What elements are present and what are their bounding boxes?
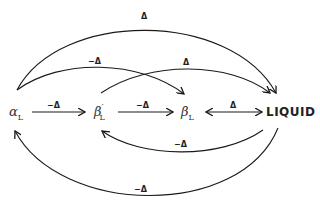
node-alpha-l: αL	[9, 105, 23, 122]
node-beta-prime-l: β′L	[94, 104, 105, 122]
label-liquid-to-alpha: −Δ	[134, 186, 147, 194]
label-beta-liquid: Δ	[230, 102, 236, 110]
label-alpha-to-beta: −Δ	[88, 58, 101, 66]
arc-beta-prime-to-liquid	[101, 69, 270, 93]
node-alpha-subscript: L	[18, 113, 23, 122]
node-beta-subscript: L	[189, 113, 194, 122]
node-beta-prime-subscript: L	[100, 113, 105, 122]
label-alpha-to-liquid: Δ	[141, 13, 147, 21]
label-beta-prime-to-liquid: Δ	[183, 59, 189, 67]
label-liquid-to-beta-prime: −Δ	[174, 141, 187, 149]
phase-transition-diagram: αL β′L βL LIQUID −Δ −Δ Δ Δ −Δ Δ −Δ −Δ	[0, 0, 320, 207]
arc-alpha-to-liquid	[17, 30, 276, 93]
node-beta-prime-mark: ′	[102, 103, 104, 113]
node-liquid: LIQUID	[266, 106, 315, 118]
label-beta-prime-to-beta: −Δ	[136, 102, 149, 110]
label-alpha-to-beta-prime: −Δ	[47, 102, 60, 110]
node-beta-l: βL	[181, 105, 194, 122]
node-alpha-symbol: α	[9, 104, 18, 119]
node-beta-symbol: β	[181, 104, 189, 119]
